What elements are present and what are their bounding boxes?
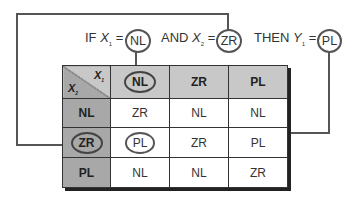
then-keyword: THEN bbox=[254, 30, 289, 45]
column-header-nl: NL bbox=[111, 66, 170, 99]
rule-then: THEN Y1 = bbox=[254, 30, 316, 47]
rule-and: AND X2 = bbox=[161, 30, 215, 47]
table-cell: NL bbox=[170, 158, 229, 188]
and-keyword: AND bbox=[161, 30, 188, 45]
table-row: PL NL NL ZR bbox=[63, 158, 288, 188]
fuzzy-rule-table: X1 X2 NL ZR PL NL ZR NL NL ZR PL ZR PL P… bbox=[62, 65, 288, 188]
table-cell: ZR bbox=[111, 99, 170, 128]
highlight-oval: ZR bbox=[71, 132, 103, 154]
y-value: PL bbox=[322, 34, 337, 48]
row-header-nl: NL bbox=[63, 99, 111, 128]
corner-x1-label: X1 bbox=[94, 69, 104, 83]
x1-value: NL bbox=[130, 34, 146, 48]
x2-value: ZR bbox=[221, 34, 238, 48]
table-row: NL ZR NL NL bbox=[63, 99, 288, 128]
table-header-row: X1 X2 NL ZR PL bbox=[63, 66, 288, 99]
column-header-zr: ZR bbox=[170, 66, 229, 99]
x2-subscript: 2 bbox=[201, 41, 204, 47]
equals-sign: = bbox=[208, 30, 216, 45]
rule-x1-value-circle: NL bbox=[125, 29, 151, 53]
table-cell: NL bbox=[229, 99, 288, 128]
table-cell: ZR bbox=[229, 158, 288, 188]
if-keyword: IF bbox=[85, 30, 97, 45]
rule-y-value-circle: PL bbox=[317, 29, 342, 53]
table-cell: NL bbox=[111, 158, 170, 188]
rule-if: IF X1 = bbox=[85, 30, 123, 47]
table-cell-highlighted: PL bbox=[111, 128, 170, 158]
table-row: ZR PL ZR PL bbox=[63, 128, 288, 158]
table-cell: NL bbox=[170, 99, 229, 128]
equals-sign: = bbox=[116, 30, 124, 45]
x1-subscript: 1 bbox=[109, 41, 112, 47]
highlight-oval: NL bbox=[124, 71, 156, 93]
row-header-pl: PL bbox=[63, 158, 111, 188]
x2-variable: X bbox=[192, 30, 201, 45]
corner-x2-label: X2 bbox=[68, 82, 78, 96]
table-corner-cell: X1 X2 bbox=[63, 66, 111, 99]
highlight-oval: PL bbox=[125, 132, 156, 154]
equals-sign: = bbox=[309, 30, 317, 45]
y-subscript: 1 bbox=[302, 41, 305, 47]
rule-x2-value-circle: ZR bbox=[216, 29, 242, 53]
table-cell: PL bbox=[229, 128, 288, 158]
column-header-pl: PL bbox=[229, 66, 288, 99]
y-variable: Y bbox=[293, 30, 302, 45]
table-cell: ZR bbox=[170, 128, 229, 158]
x1-variable: X bbox=[100, 30, 109, 45]
row-header-zr: ZR bbox=[63, 128, 111, 158]
